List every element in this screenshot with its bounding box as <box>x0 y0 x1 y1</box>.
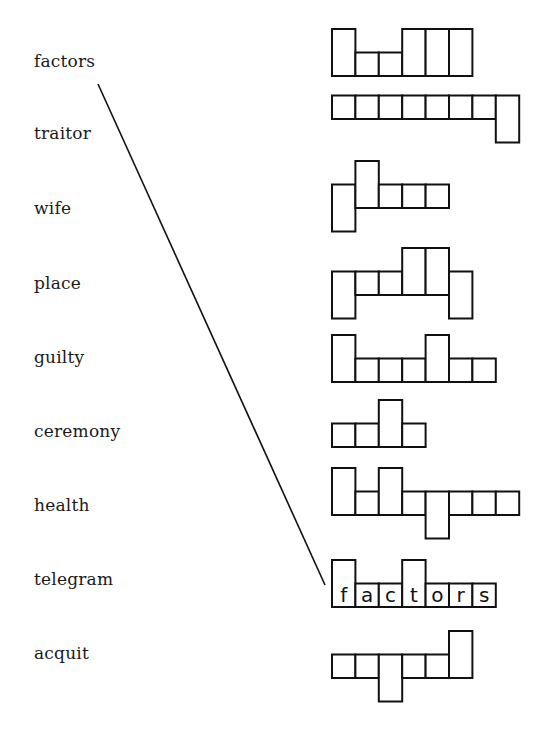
letter-box-short[interactable] <box>449 492 472 516</box>
letter-box-short[interactable] <box>379 185 402 209</box>
letter-box-short[interactable] <box>402 359 425 383</box>
letter-box-short[interactable] <box>449 96 472 120</box>
word-shape-worksheet: factorstraitorwifeplaceguiltyceremonyhea… <box>0 0 550 737</box>
letter-box-short[interactable] <box>332 655 355 679</box>
letter-box-desc[interactable] <box>332 272 355 319</box>
letter-box-short[interactable] <box>426 185 449 209</box>
letter-box-tall[interactable] <box>402 29 425 76</box>
letter-box-short[interactable] <box>426 655 449 679</box>
filled-letter: a <box>361 583 373 607</box>
letter-box-desc[interactable] <box>496 96 519 143</box>
letter-box-short[interactable] <box>472 492 495 516</box>
letter-box-desc[interactable] <box>449 272 472 319</box>
letter-box-desc[interactable] <box>379 655 402 702</box>
shape-row-6[interactable] <box>332 400 426 447</box>
match-line-factors <box>98 84 325 585</box>
letter-box-tall[interactable] <box>332 335 355 382</box>
letter-box-short[interactable] <box>355 492 378 516</box>
shape-row-2[interactable] <box>332 96 519 143</box>
shape-row-3[interactable] <box>332 161 449 232</box>
letter-box-tall[interactable] <box>426 248 449 295</box>
filled-letter: s <box>479 583 489 607</box>
letter-box-short[interactable] <box>402 96 425 120</box>
shape-row-7[interactable] <box>332 468 519 539</box>
letter-box-short[interactable] <box>379 272 402 296</box>
letter-box-short[interactable] <box>355 96 378 120</box>
letter-box-short[interactable] <box>496 492 519 516</box>
letter-box-tall[interactable] <box>332 468 355 515</box>
filled-letter: f <box>340 583 348 607</box>
letter-box-desc[interactable] <box>426 492 449 539</box>
letter-box-short[interactable] <box>332 424 355 448</box>
letter-box-short[interactable] <box>355 424 378 448</box>
letter-box-tall[interactable] <box>426 335 449 382</box>
letter-box-short[interactable] <box>472 359 495 383</box>
letter-box-short[interactable] <box>355 655 378 679</box>
word-shape-boxes: factors <box>0 0 550 737</box>
letter-box-tall[interactable] <box>379 400 402 447</box>
letter-box-desc[interactable] <box>332 185 355 232</box>
letter-box-tall[interactable] <box>426 29 449 76</box>
letter-box-short[interactable] <box>379 96 402 120</box>
letter-box-short[interactable] <box>402 655 425 679</box>
letter-box-short[interactable] <box>355 272 378 296</box>
letter-box-tall[interactable] <box>449 29 472 76</box>
letter-box-short[interactable] <box>355 53 378 77</box>
filled-letter: t <box>410 583 418 607</box>
letter-box-short[interactable] <box>355 359 378 383</box>
letter-box-tall[interactable] <box>379 468 402 515</box>
letter-box-tall[interactable] <box>355 161 378 208</box>
letter-box-short[interactable] <box>426 96 449 120</box>
filled-letter: c <box>385 583 396 607</box>
letter-box-short[interactable] <box>402 185 425 209</box>
letter-box-short[interactable] <box>402 424 425 448</box>
letter-box-short[interactable] <box>332 96 355 120</box>
filled-letter: r <box>457 583 466 607</box>
shape-row-9[interactable] <box>332 631 472 702</box>
letter-box-short[interactable] <box>379 359 402 383</box>
letter-box-tall[interactable] <box>332 29 355 76</box>
letter-box-short[interactable] <box>449 359 472 383</box>
shape-row-8-answered[interactable]: factors <box>332 560 496 607</box>
letter-box-short[interactable] <box>402 492 425 516</box>
shape-row-4[interactable] <box>332 248 472 319</box>
shape-row-1[interactable] <box>332 29 472 76</box>
letter-box-tall[interactable] <box>402 248 425 295</box>
letter-box-short[interactable] <box>472 96 495 120</box>
shape-row-5[interactable] <box>332 335 496 382</box>
letter-box-short[interactable] <box>379 53 402 77</box>
filled-letter: o <box>431 583 443 607</box>
letter-box-tall[interactable] <box>449 631 472 678</box>
